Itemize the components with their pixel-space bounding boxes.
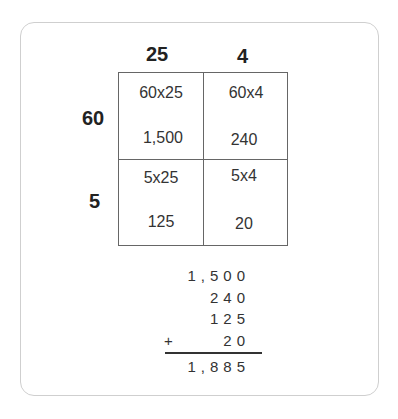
addend-1: 1,500	[187, 267, 250, 284]
cell-product: 1,500	[121, 129, 205, 147]
cell-expression: 60x25	[119, 84, 203, 102]
plus-sign: +	[164, 332, 173, 349]
cell-expression: 60x4	[204, 84, 288, 102]
cell-expression: 5x25	[119, 169, 203, 187]
cell-product: 125	[119, 213, 203, 231]
cell-product: 240	[202, 131, 286, 149]
addend-2: 240	[210, 289, 250, 306]
sum-line	[165, 352, 262, 354]
addend-4: 20	[223, 332, 250, 349]
cell-product: 20	[202, 215, 286, 233]
area-model-grid: 60x25 1,500 60x4 240 5x25 125 5x4 20	[118, 72, 288, 246]
addend-3: 125	[210, 310, 250, 327]
grid-divider-horizontal	[119, 159, 287, 160]
cell-expression: 5x4	[202, 167, 286, 185]
row-header-60: 60	[82, 107, 104, 130]
column-header-25: 25	[146, 43, 168, 66]
row-header-5: 5	[89, 190, 100, 213]
column-header-4: 4	[237, 45, 248, 68]
sum-total: 1,885	[187, 358, 250, 375]
